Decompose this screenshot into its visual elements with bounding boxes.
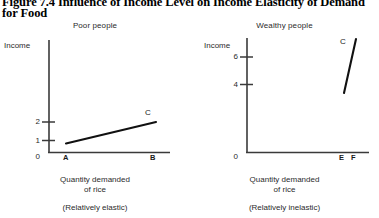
y-tick-label-6-right: 6 <box>226 52 238 61</box>
x-caption-line1-right: Quantity demanded <box>250 175 320 184</box>
x-caption-line2-right: of rice <box>190 185 379 195</box>
x-tick-label-f: F <box>351 153 356 162</box>
x-caption-line1-left: Quantity demanded <box>60 175 130 184</box>
panel-wealthy-people: Wealthy people Income 6 4 0 E F C Quanti… <box>190 0 379 218</box>
x-axis-caption-left: Quantity demanded of rice <box>0 175 190 194</box>
curve-label-c-left: C <box>145 108 151 117</box>
curve-c-left <box>66 122 156 144</box>
y-tick-label-4-right: 4 <box>226 80 238 89</box>
elasticity-note-left: (Relatively elastic) <box>0 203 190 212</box>
x-tick-label-b: B <box>150 153 155 162</box>
x-tick-label-e: E <box>339 153 344 162</box>
panel-poor-people: Poor people Income 2 1 0 A B C Quantity … <box>0 0 190 218</box>
x-tick-label-a: A <box>63 153 68 162</box>
y-tick-label-0-right: 0 <box>226 152 238 161</box>
y-tick-label-1-left: 1 <box>28 136 40 145</box>
x-axis-caption-right: Quantity demanded of rice <box>190 175 379 194</box>
curve-c-right <box>344 39 356 93</box>
x-caption-line2-left: of rice <box>0 185 190 195</box>
y-tick-label-2-left: 2 <box>28 117 40 126</box>
elasticity-note-right: (Relatively inelastic) <box>190 203 379 212</box>
curve-label-c-right: C <box>340 37 346 46</box>
y-tick-label-0-left: 0 <box>28 152 40 161</box>
